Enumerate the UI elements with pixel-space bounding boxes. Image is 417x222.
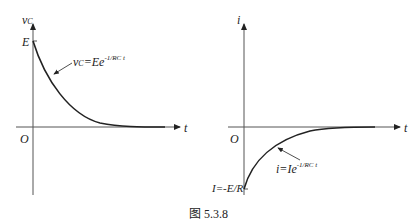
left-annotation-arrow [54,63,72,74]
left-origin-label: O [20,133,29,145]
right-origin-label: O [230,133,239,145]
right-ytick-i: I=-E/R [212,183,243,194]
left-y-axis-label: vC [22,14,33,26]
right-curve [244,127,375,189]
figure-canvas [0,0,417,222]
right-annotation-arrow [278,148,300,160]
left-formula: vC=Ee-1/RC t [73,56,125,68]
right-x-axis-label: t [404,122,407,134]
left-chart [16,24,180,195]
left-x-axis-label: t [184,122,187,134]
right-formula: i=Ie-1/RC t [276,163,317,175]
left-ytick-e: E [22,36,29,48]
right-y-axis-label: i [237,14,240,26]
left-curve [33,41,165,127]
figure-caption: 图 5.3.8 [0,204,417,222]
